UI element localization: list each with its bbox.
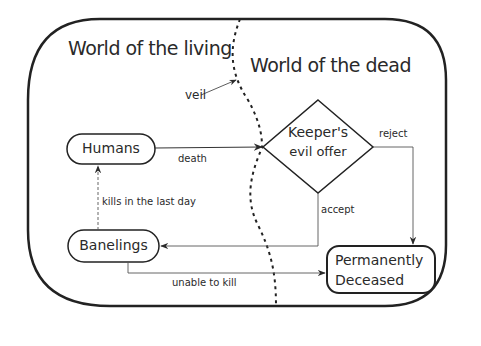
- edge-unable-label: unable to kill: [172, 277, 237, 288]
- edge-reject-label: reject: [379, 128, 407, 139]
- edge-kills-label: kills in the last day: [102, 196, 196, 207]
- edge-unable: [128, 262, 325, 273]
- region-living-label: World of the living: [68, 37, 232, 59]
- edge-death-label: death: [178, 153, 207, 164]
- deceased-label-2: Deceased: [335, 272, 404, 288]
- edge-accept-label: accept: [321, 204, 355, 215]
- veil-label: veil: [185, 88, 206, 102]
- veil-arrow: [201, 80, 236, 95]
- edge-reject: [373, 147, 413, 244]
- humans-label: Humans: [67, 140, 155, 156]
- edge-death: [155, 147, 262, 148]
- banelings-label: Banelings: [68, 237, 159, 253]
- deceased-label-1: Permanently: [335, 252, 423, 268]
- region-dead-label: World of the dead: [250, 54, 411, 76]
- keeper-label-2: evil offer: [268, 144, 368, 159]
- keeper-label-1: Keeper's: [268, 124, 368, 140]
